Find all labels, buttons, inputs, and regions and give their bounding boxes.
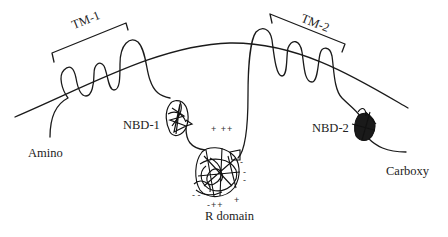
nbd1-domain	[166, 101, 192, 136]
membrane-line	[15, 43, 408, 117]
carboxy-tail	[368, 138, 406, 152]
r-charge-bottom-right: +	[234, 196, 239, 205]
diagram-canvas	[0, 0, 448, 237]
r-charge-right-3: -	[243, 176, 246, 185]
tm2-chain	[238, 29, 360, 158]
tm1-bracket	[52, 23, 128, 62]
r-charge-bottom-left: - -	[192, 191, 201, 200]
carboxy-label: Carboxy	[386, 165, 429, 178]
cftr-topology-diagram: TM-1 TM-2 NBD-1 NBD-2 Amino Carboxy R do…	[0, 0, 448, 237]
r-charge-bottom: -++	[207, 201, 224, 210]
r-domain-blob	[194, 148, 240, 197]
r-charge-top: + ++	[211, 125, 233, 134]
nbd1-label: NBD-1	[123, 119, 160, 132]
r-charge-right-1: -	[240, 158, 243, 167]
nbd2-domain	[352, 109, 376, 141]
nbd1-r-link	[186, 128, 205, 150]
r-domain-label: R domain	[205, 210, 254, 223]
amino-label: Amino	[28, 147, 63, 160]
nbd2-label: NBD-2	[312, 122, 349, 135]
